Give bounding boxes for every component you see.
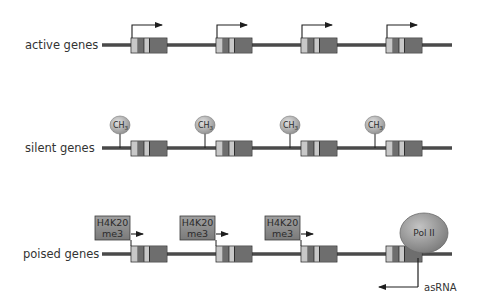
gene-exon-dark <box>393 39 399 53</box>
pol-ii-label: Pol II <box>413 228 434 238</box>
gene-exon-light <box>302 142 308 156</box>
histone-mark-sublabel: me3 <box>272 228 293 239</box>
gene-exon-dark <box>223 247 229 262</box>
gene-exon-dark <box>320 142 337 156</box>
gene-exon-light <box>230 142 235 156</box>
histone-mark-sublabel: me3 <box>102 228 123 239</box>
gene-exon-light <box>230 39 235 53</box>
transcription-start-arrow-icon <box>217 25 247 38</box>
gene-exon-light <box>315 247 320 262</box>
histone-mark-label: H4K20 <box>182 217 214 228</box>
gene-divider <box>404 39 405 53</box>
gene-divider <box>404 142 405 156</box>
gene <box>131 38 167 53</box>
row-label-active: active genes <box>25 38 98 52</box>
gene-exon-light <box>145 142 150 156</box>
gene-exon-dark <box>393 247 399 262</box>
gene-exon-light <box>132 247 138 262</box>
gene <box>386 141 422 156</box>
gene-divider <box>149 142 150 156</box>
gene-divider <box>229 247 230 262</box>
gene-exon-dark <box>138 39 144 53</box>
gene <box>216 246 252 262</box>
gene-exon-dark <box>150 39 167 53</box>
gene-exon-light <box>217 39 223 53</box>
gene-divider <box>314 39 315 53</box>
gene-divider <box>234 142 235 156</box>
gene-exon-light <box>230 247 235 262</box>
gene-exon-dark <box>223 142 229 156</box>
gene-state-diagram: active genes silent genes poised genes C… <box>0 0 479 306</box>
gene-exon-light <box>400 142 405 156</box>
gene-exon-dark <box>308 247 314 262</box>
gene-exon-dark <box>223 39 229 53</box>
poised-genes-row: H4K20me3H4K20me3H4K20me3 <box>95 216 452 262</box>
gene-divider <box>399 142 400 156</box>
histone-mark-sublabel: me3 <box>187 228 208 239</box>
row-label-poised: poised genes <box>23 247 99 261</box>
asrna-label: asRNA <box>424 282 457 293</box>
gene-exon-dark <box>405 39 422 53</box>
histone-mark-label: H4K20 <box>97 217 129 228</box>
gene-exon-dark <box>235 247 252 262</box>
silent-genes-row: CH3CH3CH3CH3 <box>102 116 452 156</box>
gene-exon-dark <box>308 39 314 53</box>
gene-exon-light <box>132 142 138 156</box>
gene-exon-dark <box>393 142 399 156</box>
gene-exon-light <box>387 247 393 262</box>
gene-exon-dark <box>138 247 144 262</box>
gene-divider <box>319 247 320 262</box>
gene-divider <box>149 39 150 53</box>
gene-exon-dark <box>150 142 167 156</box>
gene-divider <box>314 247 315 262</box>
gene-divider <box>319 39 320 53</box>
gene-exon-light <box>400 39 405 53</box>
transcription-start-arrow-icon <box>132 25 162 38</box>
gene <box>216 141 252 156</box>
gene-divider <box>144 142 145 156</box>
gene <box>301 141 337 156</box>
gene-divider <box>149 247 150 262</box>
gene-divider <box>404 247 405 262</box>
gene-divider <box>144 39 145 53</box>
gene-divider <box>234 39 235 53</box>
gene-divider <box>319 142 320 156</box>
gene-exon-light <box>217 142 223 156</box>
gene-exon-dark <box>320 247 337 262</box>
gene-exon-dark <box>308 142 314 156</box>
gene-exon-dark <box>320 39 337 53</box>
gene-exon-dark <box>138 142 144 156</box>
gene-divider <box>234 247 235 262</box>
gene-exon-light <box>145 39 150 53</box>
gene-exon-light <box>400 247 405 262</box>
gene-divider <box>229 39 230 53</box>
active-genes-row <box>102 25 452 53</box>
gene <box>301 246 337 262</box>
gene-exon-light <box>302 247 308 262</box>
row-label-silent: silent genes <box>25 141 95 155</box>
gene-exon-light <box>387 142 393 156</box>
histone-mark-label: H4K20 <box>267 217 299 228</box>
gene <box>131 246 167 262</box>
gene <box>386 38 422 53</box>
gene <box>216 38 252 53</box>
gene-exon-light <box>315 142 320 156</box>
gene-divider <box>144 247 145 262</box>
gene-divider <box>399 247 400 262</box>
gene-exon-light <box>387 39 393 53</box>
gene-exon-dark <box>150 247 167 262</box>
gene-exon-dark <box>405 142 422 156</box>
transcription-start-arrow-icon <box>387 25 417 38</box>
gene-exon-dark <box>235 142 252 156</box>
gene-exon-light <box>217 247 223 262</box>
gene <box>301 38 337 53</box>
gene-exon-light <box>315 39 320 53</box>
gene-divider <box>314 142 315 156</box>
gene-divider <box>229 142 230 156</box>
gene <box>131 141 167 156</box>
gene-divider <box>399 39 400 53</box>
gene-exon-light <box>145 247 150 262</box>
gene-exon-light <box>302 39 308 53</box>
gene-exon-light <box>132 39 138 53</box>
gene-exon-dark <box>235 39 252 53</box>
